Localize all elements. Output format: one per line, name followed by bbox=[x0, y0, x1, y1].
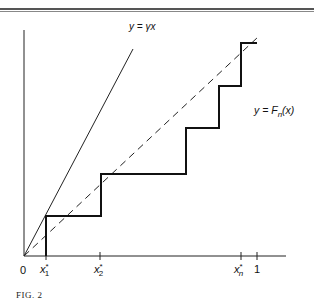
tick-label-one: 1 bbox=[254, 263, 260, 275]
tick-label-x2: x*2 bbox=[94, 263, 103, 275]
empirical-cdf-step bbox=[46, 43, 257, 256]
gamma-line bbox=[24, 49, 133, 256]
tick-label-x1: x*1 bbox=[40, 263, 49, 275]
figure-caption: FIG. 2 bbox=[16, 290, 43, 300]
gamma-line-label: y = γx bbox=[129, 21, 155, 32]
origin-label: 0 bbox=[20, 264, 26, 276]
empirical-cdf-label: y = Fn(x) bbox=[254, 104, 294, 116]
tick-label-xn: x*n bbox=[234, 263, 243, 275]
diagonal-dashed-line bbox=[24, 37, 258, 256]
